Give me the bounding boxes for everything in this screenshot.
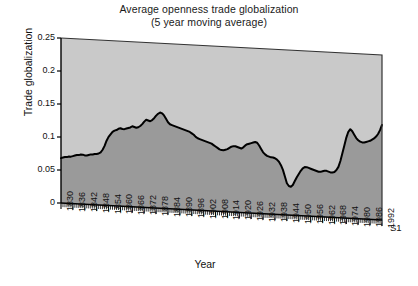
x-tick-label: 1848 xyxy=(101,193,111,213)
x-tick-label: 1920 xyxy=(243,200,253,220)
x-tick-label: 1854 xyxy=(113,193,123,213)
x-tick-label: 1950 xyxy=(303,204,313,224)
x-axis-title: Year xyxy=(150,258,260,270)
y-tick-label: 0 xyxy=(10,197,55,207)
x-tick-label: 1974 xyxy=(350,206,360,226)
x-tick-label: 1908 xyxy=(220,199,230,219)
x-tick-label: 1968 xyxy=(338,205,348,225)
x-tick-label: 1872 xyxy=(148,195,158,215)
x-tick-label: 1902 xyxy=(208,199,218,219)
x-tick-label: 1986 xyxy=(374,207,384,227)
x-tick-label: 1896 xyxy=(196,198,206,218)
x-tick-label: 1890 xyxy=(184,197,194,217)
chart-svg xyxy=(0,0,418,286)
x-tick-label: 1860 xyxy=(124,194,134,214)
x-tick-label: 1914 xyxy=(231,200,241,220)
x-tick-label: 1878 xyxy=(160,196,170,216)
x-tick-label: 1926 xyxy=(255,201,265,221)
x-tick-label: 1956 xyxy=(315,204,325,224)
x-tick-label: 1944 xyxy=(291,203,301,223)
x-tick-label: 1842 xyxy=(89,192,99,212)
plot-area xyxy=(0,0,418,286)
x-tick-label: 1884 xyxy=(172,197,182,217)
x-tick-label: 1830 xyxy=(65,191,75,211)
x-tick-label: 1938 xyxy=(279,202,289,222)
chart-root: Average openness trade globalization (5 … xyxy=(0,0,418,286)
x-tick-label: 1980 xyxy=(362,207,372,227)
x-tick-label: 1962 xyxy=(327,205,337,225)
x-tick-label: 1836 xyxy=(77,192,87,212)
y-tick-label: 0.05 xyxy=(10,164,55,174)
y-axis-title: Trade globalization xyxy=(22,0,34,152)
x-tick-label: 1866 xyxy=(136,195,146,215)
series-legend-label: S1 xyxy=(390,222,402,233)
x-tick-label: 1932 xyxy=(267,202,277,222)
